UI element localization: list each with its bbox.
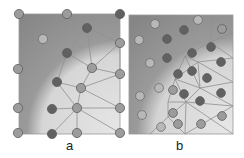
panel-a: [13, 9, 124, 138]
mesh-node-dark: [52, 77, 61, 86]
panel-b-label: b: [176, 138, 183, 153]
mesh-node-mid: [72, 103, 81, 112]
mesh-node-mid: [174, 120, 183, 129]
mesh-node-dark: [203, 74, 212, 83]
panel-b: [129, 15, 233, 134]
mesh-node-dark: [196, 97, 205, 106]
mesh-node-mid: [115, 128, 124, 137]
mesh-node-mid: [169, 109, 178, 118]
mesh-node-light: [157, 123, 166, 132]
mesh-node-mid: [115, 69, 124, 78]
mesh-node-mid: [72, 128, 81, 137]
mesh-node-dark: [188, 67, 197, 76]
mesh-node-dark: [180, 26, 189, 35]
mesh-node-mid: [13, 64, 22, 73]
mesh-node-mid: [62, 9, 71, 18]
mesh-node-light: [135, 36, 144, 45]
mesh-node-dark: [174, 70, 183, 79]
mesh-node-mid: [14, 9, 23, 18]
panel-a-label: a: [66, 138, 73, 153]
mesh-node-mid: [87, 63, 96, 72]
mesh-node-dark: [180, 90, 189, 99]
mesh-node-light: [151, 20, 160, 29]
mesh-node-mid: [115, 38, 124, 47]
mesh-node-mid: [169, 86, 178, 95]
mesh-node-dark: [163, 54, 172, 63]
mesh-node-light: [138, 111, 147, 120]
mesh-node-dark: [62, 48, 71, 57]
mesh-node-dark: [82, 23, 91, 32]
mesh-node-light: [38, 34, 47, 43]
mesh-node-light: [136, 92, 145, 101]
mesh-node-light: [155, 84, 164, 93]
mesh-node-dark: [47, 129, 56, 138]
mesh-node-mid: [13, 128, 22, 137]
mesh-node-mid: [197, 120, 206, 129]
diagram-canvas: [0, 0, 244, 158]
mesh-node-dark: [163, 35, 172, 44]
mesh-node-dark: [115, 9, 124, 18]
mesh-node-dark: [217, 89, 226, 98]
mesh-node-mid: [76, 83, 85, 92]
mesh-node-dark: [188, 49, 197, 58]
mesh-node-mid: [13, 103, 22, 112]
mesh-node-light: [146, 59, 155, 68]
mesh-node-dark: [47, 104, 56, 113]
mesh-node-light: [194, 16, 203, 25]
mesh-node-mid: [218, 112, 227, 121]
mesh-node-mid: [218, 25, 227, 34]
mesh-node-mid: [115, 103, 124, 112]
mesh-node-dark: [217, 58, 226, 67]
mesh-node-dark: [207, 43, 216, 52]
